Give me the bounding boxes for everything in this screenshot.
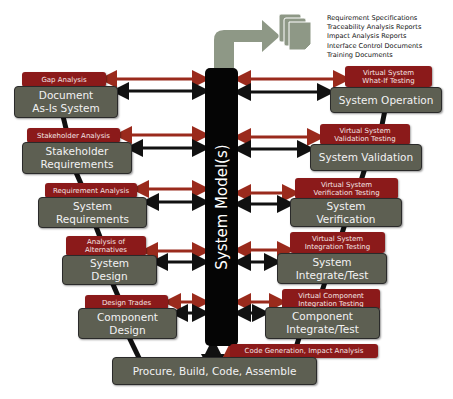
tag-analysis-of-alternatives: Analysis ofAlternatives	[66, 236, 146, 256]
box-stakeholder-requirements: StakeholderRequirements	[22, 142, 132, 174]
box-document-as-is-system: DocumentAs-Is System	[14, 86, 118, 118]
box-system-requirements: SystemRequirements	[38, 197, 147, 228]
tag-stakeholder-analysis: Stakeholder Analysis	[27, 128, 120, 143]
output-item: Interface Control Documents	[327, 42, 422, 51]
system-model-bar: System Model(s)	[205, 68, 238, 346]
box-system-integrate-test: SystemIntegrate/Test	[277, 253, 387, 284]
system-model-label: System Model(s)	[213, 144, 231, 269]
mbse-v-diagram: System Model(s) Requirement Specificatio…	[0, 0, 453, 399]
box-system-verification: SystemVerification	[290, 198, 402, 227]
output-item: Training Documents	[327, 51, 422, 60]
output-item: Traceability Analysis Reports	[327, 23, 422, 32]
tag-code-generation-impact-analysis: Code Generation, Impact Analysis	[230, 344, 378, 358]
box-system-operation: System Operation	[330, 87, 442, 113]
output-item: Requirement Specifications	[327, 14, 422, 23]
output-item: Impact Analysis Reports	[327, 32, 422, 41]
box-component-integrate-test: ComponentIntegrate/Test	[265, 307, 380, 339]
box-system-validation: System Validation	[310, 144, 422, 171]
tag-virtual-system-what-if-testing: Virtual SystemWhat-If Testing	[345, 66, 432, 87]
tag-requirement-analysis: Requirement Analysis	[45, 183, 137, 198]
output-arrow	[214, 20, 280, 68]
tag-virtual-system-verification-testing: Virtual SystemVerification Testing	[295, 178, 398, 199]
tag-virtual-system-integration-testing: Virtual SystemIntegration Testing	[290, 232, 385, 253]
box-component-design: ComponentDesign	[78, 308, 177, 339]
box-system-design: SystemDesign	[62, 255, 157, 285]
tag-gap-analysis: Gap Analysis	[22, 72, 106, 87]
documents-icon	[279, 14, 311, 50]
box-procure-build-code-assemble: Procure, Build, Code, Assemble	[112, 357, 317, 385]
tag-virtual-system-validation-testing: Virtual SystemValidation Testing	[320, 124, 410, 145]
output-documents-list: Requirement Specifications Traceability …	[327, 14, 422, 60]
